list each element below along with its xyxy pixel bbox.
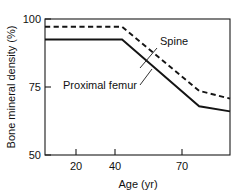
series-label-proximal-femur: Proximal femur xyxy=(63,79,137,91)
leader-line-proximal-femur xyxy=(140,69,152,85)
y-tick-label-100: 100 xyxy=(23,13,41,25)
y-tick-label-75: 75 xyxy=(29,81,41,93)
x-tick-label-40: 40 xyxy=(109,160,121,172)
series-line-proximal-femur xyxy=(45,40,230,112)
x-axis-title: Age (yr) xyxy=(118,178,157,190)
x-tick-label-20: 20 xyxy=(70,160,82,172)
bone-mineral-density-chart: 100 75 50 20 40 70 Age (yr) Bone mineral… xyxy=(0,0,244,193)
y-tick-label-50: 50 xyxy=(29,149,41,161)
series-label-spine: Spine xyxy=(160,35,188,47)
chart-canvas: 100 75 50 20 40 70 Age (yr) Bone mineral… xyxy=(0,0,244,193)
y-axis-title: Bone mineral density (%) xyxy=(5,26,17,149)
x-tick-label-70: 70 xyxy=(176,160,188,172)
